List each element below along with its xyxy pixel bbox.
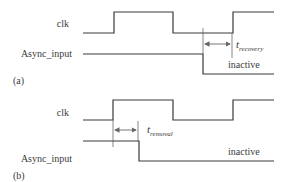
clk-waveform-a bbox=[83, 12, 274, 33]
async-input-label-b: Async_input bbox=[21, 153, 72, 164]
clk-waveform-b bbox=[83, 100, 274, 120]
clk-label-a: clk bbox=[57, 18, 69, 29]
panel-b: clk Async_input (b) tremoval inactive bbox=[13, 100, 274, 182]
panel-a: clk Async_input (a) trecovery inactive bbox=[13, 12, 274, 87]
async-input-label-a: Async_input bbox=[21, 48, 72, 59]
timing-diagram: clk Async_input (a) trecovery inactive c… bbox=[0, 0, 288, 182]
clk-label-b: clk bbox=[57, 107, 69, 118]
removal-time-label: tremoval bbox=[147, 123, 173, 138]
inactive-label-a: inactive bbox=[228, 59, 260, 70]
panel-tag-a: (a) bbox=[13, 75, 24, 87]
panel-tag-b: (b) bbox=[13, 170, 25, 182]
recovery-time-label: trecovery bbox=[236, 38, 264, 53]
inactive-label-b: inactive bbox=[228, 146, 260, 157]
